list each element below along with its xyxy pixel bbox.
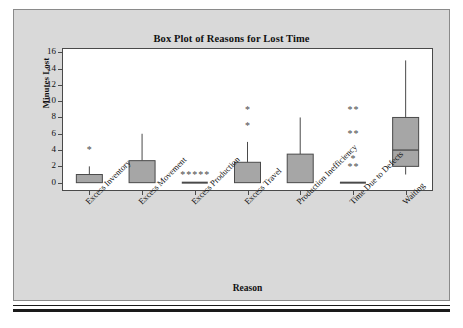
x-tick-mark — [300, 191, 301, 195]
outlier-marker: * — [347, 128, 352, 139]
outlier-marker: * — [353, 104, 358, 115]
x-tick-mark — [406, 191, 407, 195]
y-tick-label: 2 — [34, 161, 56, 170]
y-tick-mark — [58, 134, 62, 135]
y-tick-mark — [58, 85, 62, 86]
footer-rule-thin — [13, 305, 450, 306]
boxplot-item — [129, 134, 155, 183]
outlier-marker: * — [87, 144, 92, 155]
outlier-marker: * — [353, 128, 358, 139]
x-tick-mark — [142, 191, 143, 195]
x-axis-label: Reason — [62, 283, 433, 293]
y-tick-label: 4 — [34, 145, 56, 154]
outlier-marker: * — [186, 169, 191, 180]
box-rect — [76, 175, 102, 183]
footer-rule-thick — [13, 309, 450, 312]
y-tick-label: 16 — [34, 47, 56, 56]
figure-canvas: Box Plot of Reasons for Lost Time Minute… — [0, 0, 463, 328]
x-tick-mark — [89, 191, 90, 195]
outlier-marker: * — [198, 169, 203, 180]
outlier-marker: * — [245, 104, 250, 115]
y-tick-mark — [58, 150, 62, 151]
box-rect — [235, 162, 261, 182]
y-tick-mark — [58, 183, 62, 184]
x-tick-mark — [353, 191, 354, 195]
y-tick-label: 10 — [34, 96, 56, 105]
y-tick-label: 6 — [34, 129, 56, 138]
x-tick-mark — [248, 191, 249, 195]
y-tick-label: 12 — [34, 80, 56, 89]
outlier-marker: * — [347, 104, 352, 115]
box-rect — [287, 154, 313, 183]
outlier-marker: * — [245, 120, 250, 131]
boxplot-item: * — [76, 144, 102, 182]
y-tick-mark — [58, 52, 62, 53]
boxplot-item: ** — [235, 104, 261, 183]
y-tick-label: 8 — [34, 112, 56, 121]
boxplot-item: ***** — [180, 169, 209, 183]
chart-title: Box Plot of Reasons for Lost Time — [13, 33, 450, 44]
y-tick-mark — [58, 69, 62, 70]
boxplot-item — [287, 117, 313, 182]
y-tick-label: 0 — [34, 178, 56, 187]
outlier-marker: * — [204, 169, 209, 180]
y-tick-mark — [58, 166, 62, 167]
outlier-marker: * — [180, 169, 185, 180]
y-tick-label: 14 — [34, 64, 56, 73]
outlier-marker: * — [192, 169, 197, 180]
x-tick-mark — [195, 191, 196, 195]
y-tick-mark — [58, 101, 62, 102]
y-tick-mark — [58, 117, 62, 118]
